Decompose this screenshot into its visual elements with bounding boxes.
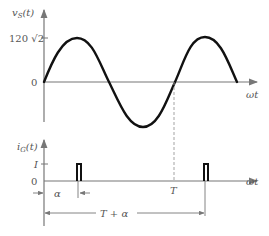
period-label: T	[170, 185, 178, 196]
voltage-plot: vS(t) 120 √2 0 ωt	[9, 7, 259, 181]
gate-pulse-1	[77, 164, 81, 181]
alpha-label: α	[54, 188, 61, 199]
period-plus-alpha-label: T + α	[100, 208, 128, 219]
current-axis-label: iG(t)	[17, 141, 38, 154]
voltage-axis-label: vS(t)	[12, 7, 34, 20]
current-x-label: ωt	[246, 176, 259, 187]
thyristor-gate-timing-diagram: vS(t) 120 √2 0 ωt iG(t) I 0 ωt T α	[0, 0, 269, 236]
gate-current-plot: iG(t) I 0 ωt T α T + α	[17, 140, 259, 226]
voltage-x-label: ωt	[246, 89, 259, 100]
current-zero-label: 0	[31, 176, 37, 187]
level-label: I	[33, 159, 39, 170]
peak-label: 120 √2	[9, 33, 44, 44]
voltage-zero-label: 0	[31, 77, 37, 88]
gate-pulse-2	[204, 164, 208, 181]
